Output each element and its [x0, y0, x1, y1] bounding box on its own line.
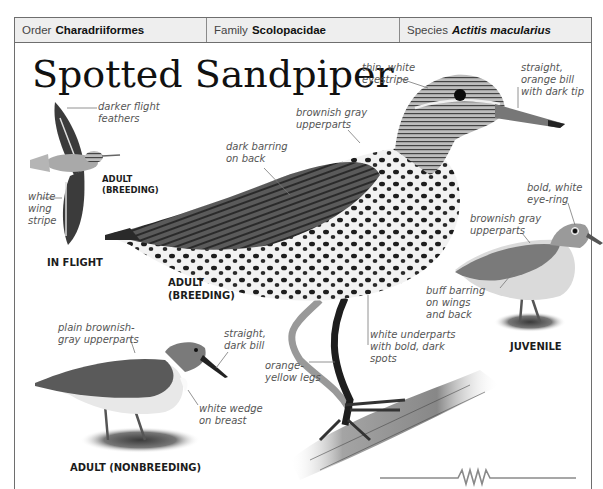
label-darker-flight-feathers: darker flight feathers	[98, 101, 160, 125]
label-bold-white-eye-ring: bold, white eye-ring	[527, 182, 582, 206]
label-juvenile-upperparts: brownish gray upperparts	[470, 213, 541, 237]
leader-dark-bill	[216, 352, 228, 368]
label-dark-barring-on-back: dark barring on back	[226, 141, 288, 165]
label-brownish-gray-upperparts: brownish gray upperparts	[296, 107, 367, 131]
caption-adult-breeding: ADULT (BREEDING)	[168, 276, 235, 302]
label-white-underparts: white underparts with bold, dark spots	[370, 329, 456, 365]
label-white-wedge-on-breast: white wedge on breast	[199, 403, 263, 427]
illustrations	[0, 0, 603, 489]
caption-in-flight-adult-breeding: ADULT (BREEDING)	[102, 174, 159, 196]
label-straight-orange-bill: straight, orange bill with dark tip	[521, 62, 584, 98]
caption-adult-nonbreeding: ADULT (NONBREEDING)	[70, 461, 201, 474]
leader-white-wedge	[188, 390, 198, 405]
label-orange-yellow-legs: orange- yellow legs	[265, 360, 321, 384]
zigzag-scale-divider	[380, 470, 576, 484]
label-plain-brownish-gray-upperparts: plain brownish- gray upperparts	[58, 322, 139, 346]
label-white-wing-stripe: white wing stripe	[28, 191, 57, 227]
leader-upperparts	[348, 130, 360, 143]
label-thin-white-eyestripe: thin, white eyestripe	[362, 62, 415, 86]
leader-eye-ring	[568, 203, 575, 225]
caption-juvenile: JUVENILE	[510, 340, 562, 353]
caption-in-flight: IN FLIGHT	[47, 256, 103, 269]
label-buff-barring: buff barring on wings and back	[426, 285, 485, 321]
adult-nonbreeding-bird-illustration	[35, 342, 228, 453]
label-straight-dark-bill: straight, dark bill	[224, 328, 266, 352]
